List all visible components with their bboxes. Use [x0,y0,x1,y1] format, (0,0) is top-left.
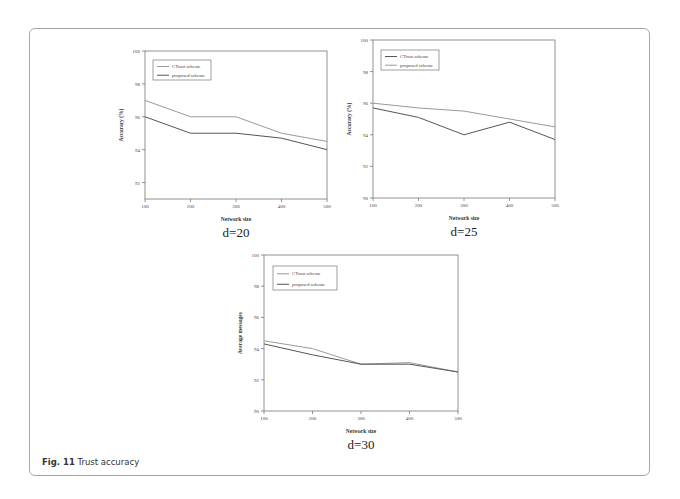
legend-entry: CTrust scheme [292,271,321,276]
y-tick-label: 98 [363,70,369,75]
chart-subtitle: d=30 [348,437,375,452]
x-tick-label: 400 [278,204,286,209]
series-line [145,100,327,141]
y-tick-label: 96 [135,115,141,120]
legend-entry: proposed scheme [400,63,433,68]
y-tick-label: 100 [133,49,141,54]
x-tick-label: 200 [415,203,423,208]
legend-entry: proposed scheme [292,282,325,287]
figure-caption: Fig. 11 Trust accuracy [42,457,139,467]
x-tick-label: 500 [551,203,559,208]
y-tick-label: 98 [135,82,141,87]
y-axis-label: Accuracy (%) [346,102,353,135]
y-tick-label: 96 [363,101,369,106]
x-tick-label: 300 [232,204,240,209]
legend-entry: CTrust scheme [400,54,429,59]
y-tick-label: 94 [135,148,141,153]
x-axis-label: Network size [449,215,480,221]
figure-charts: 92949698100100200300400500Network sizeAc… [0,0,680,499]
caption-label: Fig. 11 [42,457,75,467]
y-tick-label: 92 [135,181,141,186]
x-tick-label: 400 [406,416,414,421]
y-axis-label: Accuracy (%) [118,108,125,141]
series-line [145,117,327,150]
y-tick-label: 96 [254,315,260,320]
legend-entry: proposed scheme [172,73,205,78]
y-tick-label: 94 [363,133,369,138]
y-tick-label: 92 [254,378,260,383]
series-line [264,344,458,372]
x-tick-label: 300 [357,416,365,421]
x-tick-label: 200 [309,416,317,421]
chart-1: 92949698100100200300400500Network sizeAc… [118,49,331,240]
chart-subtitle: d=25 [451,224,478,239]
x-tick-label: 500 [454,416,462,421]
y-tick-label: 90 [254,409,260,414]
x-tick-label: 300 [460,203,468,208]
y-tick-label: 94 [254,347,260,352]
chart-subtitle: d=20 [223,225,250,240]
x-tick-label: 100 [369,203,377,208]
y-tick-label: 98 [254,284,260,289]
x-tick-label: 500 [323,204,331,209]
y-tick-label: 90 [363,196,369,201]
y-tick-label: 100 [361,38,369,43]
x-tick-label: 200 [187,204,195,209]
x-tick-label: 100 [141,204,149,209]
series-line [373,108,555,140]
x-tick-label: 100 [260,416,268,421]
legend-entry: CTrust scheme [172,64,201,69]
x-axis-label: Network size [221,216,252,222]
y-tick-label: 92 [363,164,369,169]
x-tick-label: 400 [506,203,514,208]
y-axis-label: Average messages [237,312,243,354]
caption-text: Trust accuracy [78,457,140,467]
chart-2: 9092949698100100200300400500Network size… [346,38,559,239]
y-tick-label: 100 [252,253,260,258]
x-axis-label: Network size [346,428,377,434]
series-line [373,103,555,127]
chart-3: 9092949698100100200300400500Network size… [237,253,462,452]
